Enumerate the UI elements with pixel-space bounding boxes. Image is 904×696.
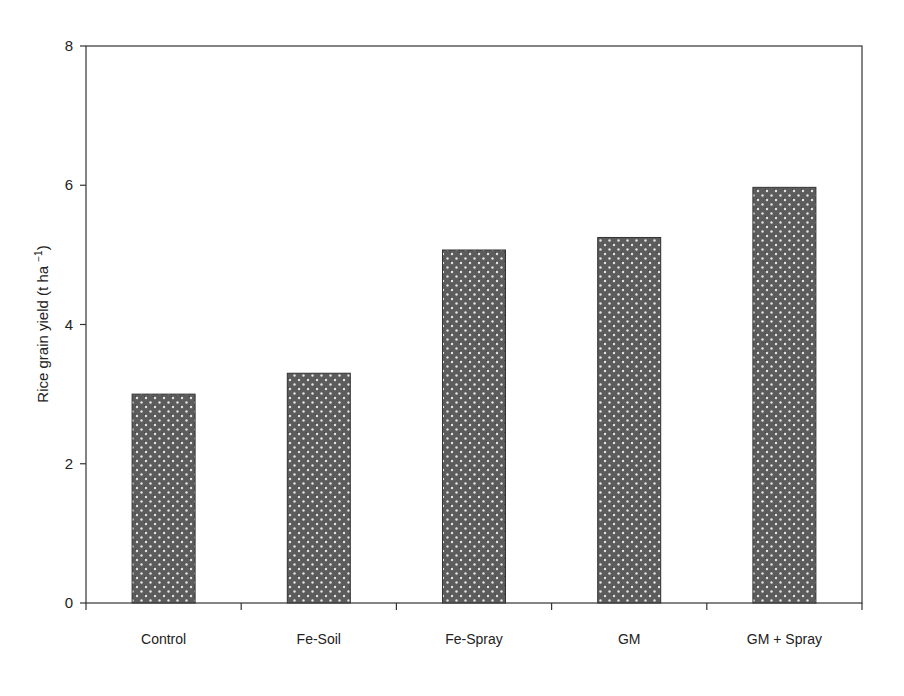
y-tick-label: 8	[65, 37, 73, 54]
bar	[753, 187, 816, 603]
bar	[598, 237, 661, 603]
y-tick-label: 6	[65, 176, 73, 193]
bar-chart: 02468 ControlFe-SoilFe-SprayGMGM + Spray…	[0, 0, 904, 696]
y-tick-label: 0	[65, 594, 73, 611]
x-tick-label: GM + Spray	[747, 631, 822, 647]
x-tick-label: Fe-Spray	[445, 631, 503, 647]
y-axis: 02468	[65, 37, 86, 611]
x-tick-label: GM	[618, 631, 641, 647]
y-axis-label: Rice grain yield (t ha −1)	[33, 245, 51, 402]
y-tick-label: 4	[65, 316, 73, 333]
x-tick-label: Fe-Soil	[297, 631, 341, 647]
x-tick-label: Control	[141, 631, 186, 647]
bars	[132, 187, 816, 603]
bar	[287, 373, 350, 603]
bar	[132, 394, 195, 603]
y-tick-label: 2	[65, 455, 73, 472]
x-axis: ControlFe-SoilFe-SprayGMGM + Spray	[86, 603, 862, 647]
bar	[443, 250, 506, 603]
